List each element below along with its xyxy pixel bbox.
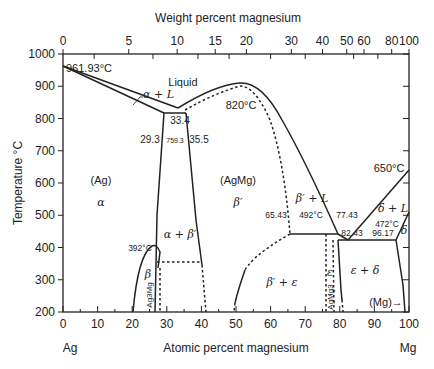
- x-tick-label: 90: [368, 317, 382, 331]
- label-33-4: 33.4: [170, 115, 190, 126]
- x-tick-label: 10: [91, 317, 105, 331]
- label-agmg-phase: (AgMg): [220, 174, 256, 186]
- x2-tick-label: 80: [385, 34, 399, 48]
- x-left-element-label: Ag: [63, 341, 78, 355]
- label-ag3mg: Ag3Mg: [145, 282, 154, 307]
- label-35-5: 35.5: [189, 134, 209, 145]
- right-ticks: [403, 54, 409, 312]
- y-tick-label: 300: [35, 273, 55, 287]
- x2-tick-label: 15: [209, 34, 223, 48]
- y-tick-label: 800: [35, 112, 55, 126]
- label-77-43: 77.43: [336, 210, 358, 220]
- beta-prime-left-dashed: [202, 265, 206, 312]
- label-alpha-l: α + L: [143, 88, 174, 101]
- x2-axis-title: Weight percent magnesium: [155, 11, 301, 25]
- epsilon-right: [338, 240, 342, 300]
- x-tick-label: 30: [160, 317, 174, 331]
- label-ag-phase: (Ag): [91, 174, 112, 186]
- label-759-3: 759.3: [166, 137, 184, 144]
- y-axis-title: Temperature °C: [11, 141, 25, 225]
- x2-tick-label: 60: [357, 34, 371, 48]
- x-right-element-label: Mg: [400, 341, 417, 355]
- x-tick-label: 20: [126, 317, 140, 331]
- y-tick-label: 500: [35, 208, 55, 222]
- beta-prime-right-solid: [235, 270, 245, 303]
- label-epsilon: ε: [327, 266, 333, 279]
- x-tick-label: 40: [195, 317, 209, 331]
- label-delta: δ: [401, 224, 408, 237]
- y-tick-label: 200: [35, 305, 55, 319]
- beta-prime-solvus-dashed: [245, 234, 290, 270]
- label-agmg3: AgMg3: [326, 284, 335, 310]
- y-tick-label: 1000: [28, 47, 55, 61]
- x2-tick-label: 20: [240, 34, 254, 48]
- x-tick-label: 80: [333, 317, 347, 331]
- y-tick-label: 700: [35, 144, 55, 158]
- x2-tick-label: 30: [285, 34, 299, 48]
- label-beta-prime-l: β′ + L: [295, 192, 328, 205]
- label-961: 961.93°C: [66, 62, 112, 74]
- x2-tick-label: 5: [125, 34, 132, 48]
- label-65-43: 65.43: [265, 210, 287, 220]
- label-delta-l: δ + L: [378, 202, 408, 215]
- label-82-43: 82.43: [341, 228, 363, 238]
- x2-tick-label: 50: [340, 34, 354, 48]
- x-ticks: 0102030405060708090100: [60, 306, 420, 331]
- label-beta: β: [144, 268, 151, 281]
- label-96-17: 96.17: [372, 228, 394, 238]
- y-tick-label: 600: [35, 176, 55, 190]
- label-beta-prime: β′: [233, 196, 243, 209]
- label-epsilon-delta: ε + δ: [351, 264, 380, 277]
- x-tick-label: 70: [299, 317, 313, 331]
- x2-ticks: 051015203040506080100: [60, 34, 420, 59]
- label-820: 820°C: [226, 99, 257, 111]
- x2-tick-label: 10: [171, 34, 185, 48]
- x-tick-label: 100: [399, 317, 419, 331]
- x-tick-label: 0: [60, 317, 67, 331]
- label-alpha-beta-prime: α + β′: [164, 228, 197, 241]
- label-mg-phase: (Mg)→: [369, 296, 403, 308]
- x2-tick-label: 0: [60, 34, 67, 48]
- label-29-3: 29.3: [140, 134, 160, 145]
- x2-tick-label: 40: [316, 34, 330, 48]
- x-axis-title: Atomic percent magnesium: [163, 341, 308, 355]
- label-liquid: Liquid: [168, 76, 197, 88]
- x-tick-label: 50: [229, 317, 243, 331]
- beta-prime-bottom-dashed: [234, 303, 235, 312]
- annotations: 961.93°C Liquid α + L 820°C 33.4 29.3 75…: [66, 62, 408, 310]
- label-beta-prime-epsilon: β′ + ε: [266, 276, 298, 289]
- label-650: 650°C: [374, 162, 405, 174]
- y-tick-label: 900: [35, 79, 55, 93]
- phase-diagram-chart: Weight percent magnesium 051015203040506…: [0, 0, 434, 369]
- agmg3-right-dashed: [342, 300, 343, 312]
- label-492: 492°C: [299, 210, 323, 220]
- label-alpha: α: [97, 196, 105, 209]
- y-ticks: 1000900800700600500400300200: [28, 47, 63, 319]
- x2-tick-label: 100: [399, 34, 419, 48]
- x-tick-label: 60: [264, 317, 278, 331]
- y-tick-label: 400: [35, 241, 55, 255]
- label-392: 392°C: [128, 243, 152, 253]
